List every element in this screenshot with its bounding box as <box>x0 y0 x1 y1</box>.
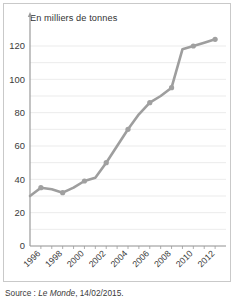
svg-text:40: 40 <box>15 174 25 185</box>
source-note: Source : Le Monde, 14/02/2015. <box>5 288 124 298</box>
svg-text:80: 80 <box>15 107 25 118</box>
chart-frame: En milliers de tonnes 020406080100120 19… <box>3 3 231 282</box>
svg-text:20: 20 <box>15 207 25 218</box>
svg-text:2008: 2008 <box>152 248 173 269</box>
x-axis-tick-labels: 199619982000200220042006200820102012 <box>21 248 216 269</box>
y-axis-tick-labels: 020406080100120 <box>9 40 25 251</box>
svg-text:1998: 1998 <box>43 248 64 269</box>
svg-text:1996: 1996 <box>21 248 42 269</box>
svg-text:2006: 2006 <box>130 248 151 269</box>
svg-text:2012: 2012 <box>196 248 217 269</box>
data-markers <box>38 37 217 196</box>
svg-text:100: 100 <box>9 74 25 85</box>
svg-text:60: 60 <box>15 140 25 151</box>
source-prefix: Source : <box>5 288 38 298</box>
grid-lines <box>30 46 226 246</box>
svg-text:2000: 2000 <box>65 248 86 269</box>
svg-text:120: 120 <box>9 40 25 51</box>
source-publication: Le Monde <box>38 288 75 298</box>
svg-text:0: 0 <box>20 240 25 251</box>
svg-text:2010: 2010 <box>174 248 195 269</box>
svg-text:2004: 2004 <box>108 248 129 269</box>
line-chart-plot: 020406080100120 199619982000200220042006… <box>4 4 231 282</box>
figure-container: En milliers de tonnes 020406080100120 19… <box>0 0 234 307</box>
svg-text:2002: 2002 <box>87 248 108 269</box>
source-suffix: , 14/02/2015. <box>75 288 123 298</box>
